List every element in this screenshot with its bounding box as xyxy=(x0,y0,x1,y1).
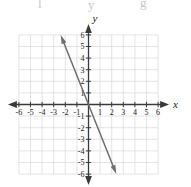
x-tick-label: -2 xyxy=(62,108,69,117)
x-axis-tick-labels: -6-5-4-3-2-1123456 xyxy=(16,108,161,117)
y-tick-label: 5 xyxy=(81,42,85,51)
x-axis-label: x xyxy=(172,98,178,110)
y-axis-label: y xyxy=(92,12,98,24)
y-tick-label: 4 xyxy=(81,54,85,63)
y-tick-label: -2 xyxy=(78,124,85,133)
x-tick-label: 6 xyxy=(156,108,160,117)
x-tick-label: 3 xyxy=(121,108,125,117)
x-tick-label: -6 xyxy=(16,108,23,117)
x-tick-label: 2 xyxy=(110,108,114,117)
x-tick-label: 4 xyxy=(133,108,137,117)
x-tick-label: 1 xyxy=(98,108,102,117)
y-tick-label: -6 xyxy=(78,170,85,179)
y-tick-label: -1 xyxy=(78,112,85,121)
graph-figure: lyg -6-5-4-3-2-1123456 654321-1-2-3-4-5-… xyxy=(0,0,191,187)
y-tick-label: -5 xyxy=(78,158,85,167)
x-tick-label: -4 xyxy=(39,108,46,117)
y-tick-label: -4 xyxy=(78,147,85,156)
y-tick-label: 3 xyxy=(81,66,85,75)
y-tick-label: 6 xyxy=(81,31,85,40)
y-tick-label: -3 xyxy=(78,135,85,144)
x-tick-label: -5 xyxy=(27,108,34,117)
x-tick-label: -3 xyxy=(50,108,57,117)
x-tick-label: 5 xyxy=(145,108,149,117)
coordinate-plane: -6-5-4-3-2-1123456 654321-1-2-3-4-5-6 x … xyxy=(0,0,191,187)
